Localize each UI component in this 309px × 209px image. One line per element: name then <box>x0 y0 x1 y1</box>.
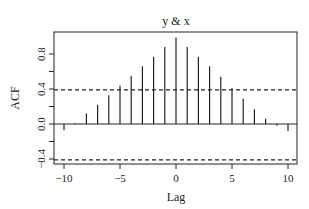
x-tick-label: 10 <box>283 172 295 184</box>
chart-title: y & x <box>162 14 189 28</box>
y-tick-label: −0.4 <box>35 149 47 169</box>
x-tick-label: 0 <box>173 172 179 184</box>
x-axis: −10−50510 <box>55 164 294 184</box>
y-tick-label: 0.0 <box>35 117 47 131</box>
x-tick-label: 5 <box>229 172 235 184</box>
x-tick-label: −5 <box>114 172 126 184</box>
x-axis-label: Lag <box>167 190 186 204</box>
x-tick-label: −10 <box>55 172 73 184</box>
y-axis: −0.40.00.40.8 <box>35 47 54 169</box>
y-axis-label: ACF <box>8 86 22 110</box>
acf-stems <box>64 37 288 131</box>
acf-chart: y & x −0.40.00.40.8 −10−50510 Lag ACF <box>0 0 309 209</box>
y-tick-label: 0.4 <box>35 82 47 96</box>
y-tick-label: 0.8 <box>35 47 47 61</box>
